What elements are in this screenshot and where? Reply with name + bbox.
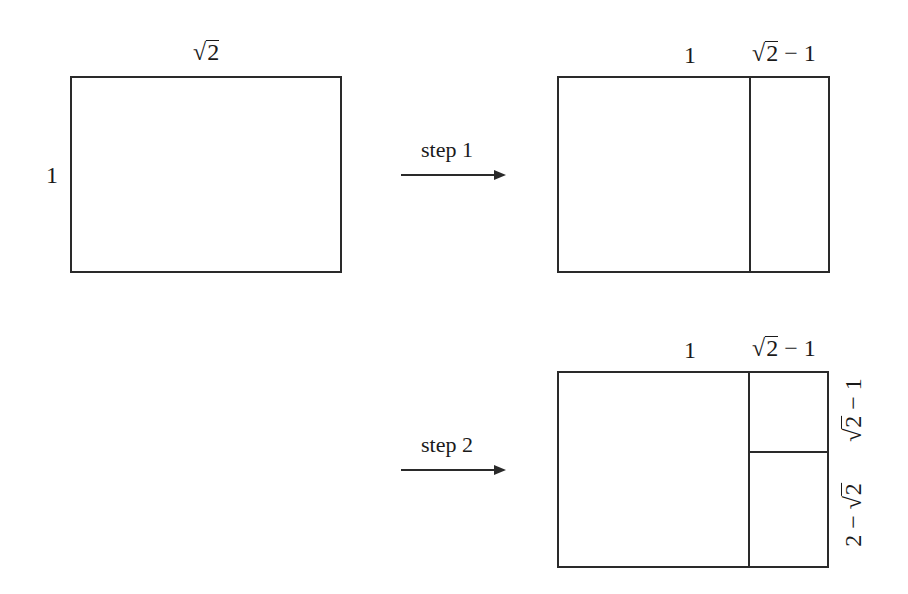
step-1-label: step 1 (421, 139, 473, 161)
radicand: 2 (841, 483, 865, 496)
step-1-outer-rectangle (557, 76, 830, 273)
top-label-sqrt2-minus-1: √2 − 1 (752, 336, 816, 360)
top-label-1: 1 (684, 43, 696, 67)
sqrt-expression: √2 (193, 40, 219, 64)
radical-sign: √ (841, 496, 865, 509)
radical-sign: √ (752, 41, 765, 65)
sqrt-expression: √2 (752, 336, 778, 360)
top-label-1: 1 (684, 338, 696, 362)
suffix: − 1 (778, 335, 816, 361)
prefix: 2 − (840, 509, 866, 547)
radicand: 2 (841, 416, 865, 429)
suffix: − 1 (778, 40, 816, 66)
arrow-right-icon (400, 463, 510, 477)
left-label-1: 1 (46, 163, 58, 187)
step-2-square-divider (748, 371, 750, 568)
radical-sign: √ (752, 336, 765, 360)
step-2-outer-rectangle (557, 371, 829, 568)
sqrt-expression: √2 (752, 41, 778, 65)
radicand: 2 (206, 40, 219, 64)
sqrt-expression: √2 (841, 416, 865, 442)
initial-rectangle (70, 76, 342, 273)
radicand: 2 (765, 41, 778, 65)
step-1-square-divider (749, 76, 751, 273)
top-label-sqrt2-minus-1: √2 − 1 (752, 41, 816, 65)
top-label-sqrt2: √2 (193, 40, 219, 64)
radical-sign: √ (841, 429, 865, 442)
right-label-2-minus-sqrt2: 2 − √2 (841, 483, 865, 547)
radicand: 2 (765, 336, 778, 360)
right-label-sqrt2-minus-1: √2 − 1 (841, 378, 865, 442)
suffix: − 1 (840, 378, 866, 416)
arrow-right-icon (400, 168, 510, 182)
step-2-label: step 2 (421, 434, 473, 456)
radical-sign: √ (193, 40, 206, 64)
sqrt-expression: √2 (841, 483, 865, 509)
step-2-second-square-divider (748, 451, 828, 453)
